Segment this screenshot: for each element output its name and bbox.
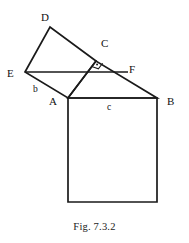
vertex-label-f: F	[129, 64, 135, 75]
right-triangle-abc	[68, 61, 157, 98]
side-label-b: b	[33, 84, 38, 94]
vertex-label-c: C	[101, 38, 108, 49]
side-label-c: c	[107, 102, 111, 112]
right-angle-dot-icon	[96, 64, 98, 66]
vertex-label-e: E	[7, 68, 14, 79]
figure-canvas	[0, 0, 189, 243]
vertex-label-d: D	[41, 12, 49, 23]
square-on-side-c	[68, 98, 157, 202]
vertex-label-b: B	[167, 96, 174, 107]
vertex-label-a: A	[49, 96, 57, 107]
geometry-figure: D C E F A B b c Fig. 7.3.2	[0, 0, 189, 243]
figure-caption: Fig. 7.3.2	[0, 221, 189, 232]
